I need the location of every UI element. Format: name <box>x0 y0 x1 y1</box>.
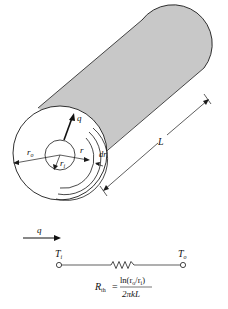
cylinder-diagram: q ro r ri dr L q Ti To Rth = ln(ro/ri) 2… <box>0 0 228 309</box>
resistor-icon <box>111 262 134 269</box>
label-equals: = <box>112 281 118 292</box>
L-arrowhead-bottom-icon <box>103 185 109 191</box>
label-dr: dr <box>99 149 107 159</box>
label-To: To <box>178 248 187 260</box>
L-arrowhead-top-icon <box>203 99 209 105</box>
label-L: L <box>157 136 164 147</box>
node-To <box>180 262 185 267</box>
label-q: q <box>77 113 82 123</box>
circuit-q-arrowhead-icon <box>54 235 61 241</box>
formula-denominator: 2πkL <box>122 289 140 299</box>
L-dim-line-upper <box>167 100 208 135</box>
formula-numerator: ln(ro/ri) <box>120 275 145 286</box>
node-Ti <box>56 262 61 267</box>
label-Rth: Rth <box>94 281 106 293</box>
circuit-q-label: q <box>37 225 42 235</box>
L-dim-line-lower <box>104 143 158 190</box>
label-Ti: Ti <box>55 248 63 260</box>
label-r: r <box>80 145 84 155</box>
